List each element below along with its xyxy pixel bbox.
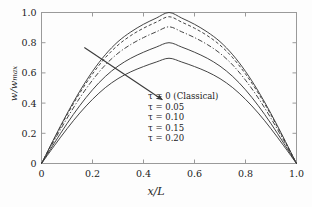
legend-entry-1: τ = 0.05 [148,102,184,112]
x-tick-label: 0 [38,168,44,179]
y-tick-label: 0.4 [21,98,36,109]
y-axis-label-subscript: max [11,66,19,81]
y-tick-label: 0.8 [21,37,36,48]
legend-entry-0: τ = 0 (Classical) [148,91,218,101]
legend-entry-4: τ = 0.20 [148,133,184,143]
legend-entry-2: τ = 0.10 [148,112,184,122]
x-tick-label: 0.2 [85,168,100,179]
y-axis-label: w/wmax [8,39,19,129]
line-chart: 00.20.40.60.81.0 00.20.40.60.81.0 τ = 0 … [0,0,312,207]
y-axis-label-numerator: w [8,93,19,102]
y-axis-label-divider: / [8,89,19,92]
x-tick-label: 1.0 [289,168,304,179]
legend-entry-3: τ = 0.15 [148,123,184,133]
figure-container: 00.20.40.60.81.0 00.20.40.60.81.0 τ = 0 … [0,0,312,207]
y-tick-label: 1.0 [21,7,36,18]
y-tick-label: 0.2 [21,128,36,139]
y-tick-label: 0 [30,158,36,169]
x-tick-label: 0.8 [238,168,253,179]
y-axis-label-denominator: w [8,81,19,90]
x-axis-label: x/L [0,185,312,198]
x-tick-label: 0.4 [136,168,151,179]
y-tick-label: 0.6 [21,67,36,78]
x-tick-label: 0.6 [187,168,202,179]
